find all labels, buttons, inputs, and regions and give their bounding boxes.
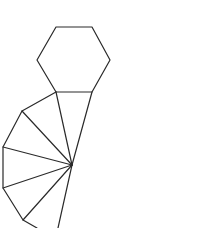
- geometric-net-diagram: [0, 0, 204, 228]
- spoke-line: [3, 147, 72, 165]
- spoke-line: [72, 92, 92, 165]
- spoke-line: [56, 92, 72, 165]
- net-svg: [0, 0, 204, 228]
- fan-outline: [3, 92, 56, 228]
- fan-spokes: [3, 92, 92, 228]
- hexagon: [37, 27, 110, 92]
- spoke-line: [22, 111, 72, 165]
- spoke-line: [58, 165, 72, 228]
